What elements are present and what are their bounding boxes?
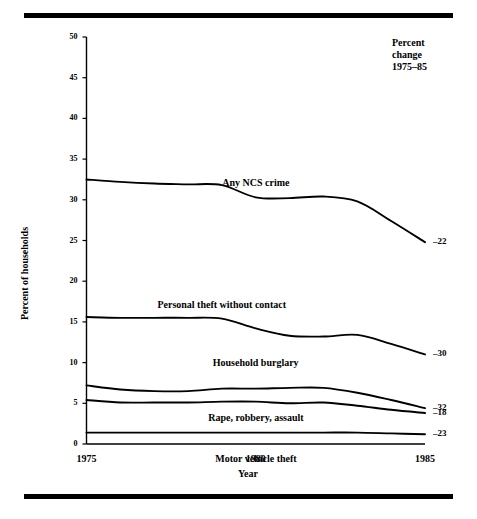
axes-group bbox=[83, 37, 426, 444]
series-label-1: Personal theft without contact bbox=[157, 299, 286, 310]
y-tick-label: 40 bbox=[56, 113, 78, 122]
y-tick-label: 20 bbox=[56, 276, 78, 285]
y-tick-label: 10 bbox=[56, 358, 78, 367]
percent-change-4: –23 bbox=[433, 428, 447, 438]
y-tick-label: 50 bbox=[56, 32, 78, 41]
y-tick-label: 35 bbox=[56, 154, 78, 163]
series-line-4 bbox=[87, 433, 426, 435]
series-label-3: Rape, robbery, assault bbox=[208, 412, 303, 423]
y-tick-label: 0 bbox=[56, 439, 78, 448]
percent-change-3: –18 bbox=[433, 407, 447, 417]
percent-change-0: –22 bbox=[433, 236, 447, 246]
y-tick-label: 25 bbox=[56, 236, 78, 245]
y-tick-label: 15 bbox=[56, 317, 78, 326]
x-tick-label: 1985 bbox=[400, 453, 450, 464]
series-label-2: Household burglary bbox=[213, 357, 299, 368]
y-tick-label: 5 bbox=[56, 398, 78, 407]
series-label-4: Motor vehicle theft bbox=[215, 453, 296, 464]
y-tick-label: 30 bbox=[56, 195, 78, 204]
percent-change-1: –30 bbox=[433, 348, 447, 358]
series-label-0: Any NCS crime bbox=[222, 177, 289, 188]
y-tick-label: 45 bbox=[56, 73, 78, 82]
series-line-0 bbox=[87, 179, 426, 242]
series-line-1 bbox=[87, 317, 426, 354]
x-tick-label: 1975 bbox=[62, 453, 112, 464]
figure-container: Percent change 1975–85 Percent of househ… bbox=[0, 0, 477, 519]
series-line-2 bbox=[87, 385, 426, 408]
